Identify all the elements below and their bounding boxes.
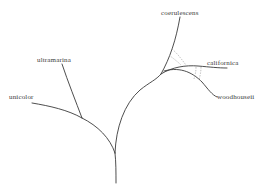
taxon-label-unicolor: unicolor [9,94,34,101]
branch-coerulescens [161,17,180,74]
taxon-label-ultramarina: ultramarina [37,57,71,64]
branch-unicolor [32,103,82,118]
gene-flow-coerulescens-californica-2 [169,55,181,65]
gene-flow-californica-woodhouseii-1 [194,67,196,79]
branch-woodhouseii [164,69,217,97]
gene-flow-coerulescens-californica-1 [172,49,186,65]
taxon-label-californica: californica [207,60,239,67]
branch-right-clade [115,74,161,153]
gene-flow-californica-woodhouseii-2 [199,67,201,80]
taxon-label-woodhouseii: woodhouseii [217,94,254,101]
taxon-label-coerulescens: coerulescens [161,10,199,17]
root-branch [115,153,116,183]
branch-left-clade [82,118,115,153]
branch-ultramarina [62,64,82,118]
